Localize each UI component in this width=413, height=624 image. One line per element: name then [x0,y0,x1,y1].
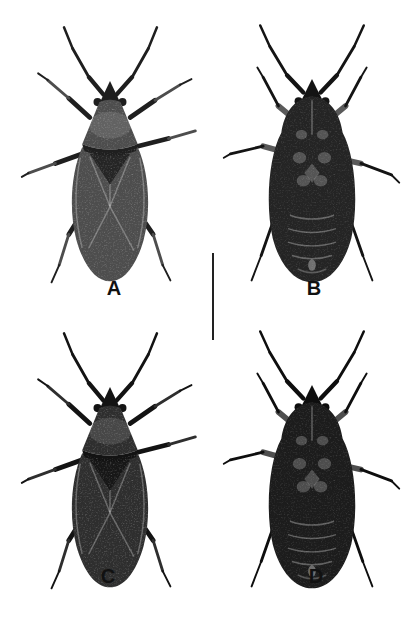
specimen-panel-a [16,12,204,290]
specimen-panel-c [16,318,204,596]
scale-bar [212,253,214,340]
bug-dorsal-photo-c [16,318,204,596]
specimen-panel-d [218,318,406,596]
bug-ventral-photo-d [218,318,406,596]
panel-label-d: D [296,565,336,587]
panel-label-b: B [294,277,334,299]
specimen-panel-b [218,12,406,290]
specimen-figure: A B C D [0,0,413,624]
bug-dorsal-photo-a [16,12,204,290]
bug-ventral-photo-b [218,12,406,290]
panel-label-a: A [94,277,134,299]
panel-label-c: C [88,565,128,587]
